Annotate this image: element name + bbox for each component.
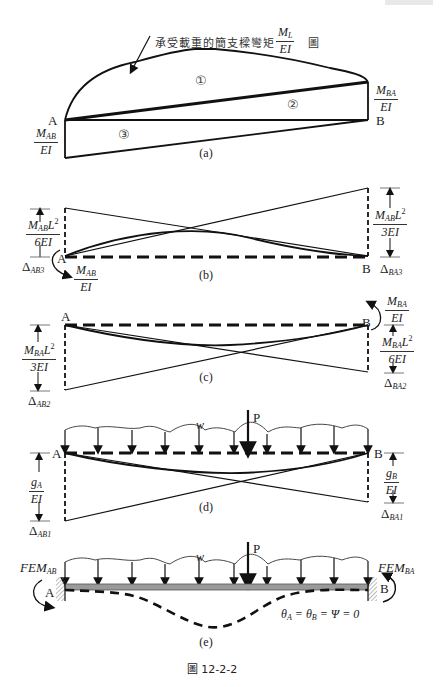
panel-d-point-load-p: P (253, 411, 260, 424)
panel-c-node-b: B (362, 316, 371, 329)
panel-c-left-deflection-fraction: MBAL2 3EI (22, 343, 56, 374)
region-1-label: ① (195, 73, 207, 88)
panel-d-distributed-load-w: w (196, 419, 204, 431)
fem-ba-label: FEMBA (378, 561, 415, 576)
panel-b-left-deflection-fraction: MABL2 6EI (26, 218, 60, 249)
panel-e-distributed-load-w: w (196, 551, 204, 563)
panel-d-node-a: A (52, 447, 61, 460)
panel-e-node-a: A (45, 586, 54, 599)
panel-a-annotation-suffix: 圖 (308, 34, 320, 50)
panel-d-node-b: B (374, 447, 383, 460)
panel-a-annotation: 承受載重的簡支樑彎矩 (155, 34, 275, 50)
node-a-label: A (48, 114, 57, 127)
panel-b-right-delta: ΔBA3 (380, 262, 402, 277)
boundary-condition-label: θA = θB = Ψ = 0 (281, 608, 359, 622)
panel-d-caption: (d) (199, 500, 213, 515)
panel-c-drawing (30, 303, 404, 391)
node-b-label: B (376, 114, 385, 127)
panel-a-annotation-fraction: ML EI (276, 26, 294, 56)
panel-c-end-moment-fraction: MBA EI (385, 295, 409, 325)
panel-e-node-b: B (380, 582, 389, 595)
panel-b-left-delta: ΔAB3 (22, 260, 44, 275)
region-3-label: ③ (118, 127, 130, 142)
panel-b-node-b: B (362, 262, 371, 275)
panel-a-drawing (65, 36, 368, 158)
panel-c-left-delta: ΔAB2 (28, 394, 50, 409)
panel-c-right-delta: ΔBA2 (384, 376, 406, 391)
panel-a-left-moment-fraction: MAB EI (34, 127, 58, 157)
region-2-label: ② (287, 97, 299, 112)
panel-c-caption: (c) (199, 370, 212, 385)
panel-b-node-a: A (57, 252, 66, 265)
panel-d-right-delta: ΔBA1 (381, 507, 403, 522)
panel-b-right-deflection-fraction: MABL2 3EI (373, 208, 407, 239)
panel-e-caption: (e) (199, 635, 212, 650)
panel-b-end-moment-fraction: MAB EI (74, 264, 98, 294)
panel-b-caption: (b) (199, 268, 213, 283)
panel-c-node-a: A (61, 310, 70, 323)
fem-ab-label: FEMAB (20, 561, 57, 576)
panel-d-left-fraction: gA EI (29, 476, 44, 506)
panel-e-point-load-p: P (253, 542, 260, 555)
panel-c-right-deflection-fraction: MBAL2 6EI (380, 335, 414, 366)
figure-caption: 圖 12-2-2 (187, 660, 237, 676)
panel-d-left-delta: ΔAB1 (29, 524, 51, 539)
panel-a-right-moment-fraction: MBA EI (374, 84, 398, 114)
panel-a-caption: (a) (199, 146, 212, 161)
panel-d-right-fraction: gB EI (384, 467, 399, 497)
panel-d-drawing (30, 410, 404, 521)
